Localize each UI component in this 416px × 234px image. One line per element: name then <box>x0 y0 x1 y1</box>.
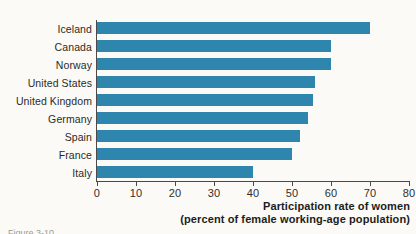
bar-italy <box>97 166 253 178</box>
bar-canada <box>97 40 331 52</box>
category-label-france: France <box>0 149 92 161</box>
figure-caption-partial: Figure 3-10 <box>8 228 208 234</box>
x-tick-label-20: 20 <box>160 187 190 199</box>
x-tick-label-0: 0 <box>82 187 112 199</box>
x-axis-title-line1: Participation rate of women <box>263 200 410 212</box>
bar-united-kingdom <box>97 94 313 106</box>
category-label-italy: Italy <box>0 167 92 179</box>
x-tick-label-30: 30 <box>199 187 229 199</box>
x-tick-label-60: 60 <box>316 187 346 199</box>
bar-iceland <box>97 22 370 34</box>
category-label-united-kingdom: United Kingdom <box>0 95 92 107</box>
x-tick-70 <box>370 181 371 186</box>
x-tick-label-70: 70 <box>355 187 385 199</box>
bar-germany <box>97 112 308 124</box>
x-tick-30 <box>214 181 215 186</box>
x-tick-40 <box>253 181 254 186</box>
bar-norway <box>97 58 331 70</box>
category-label-canada: Canada <box>0 41 92 53</box>
x-tick-label-50: 50 <box>277 187 307 199</box>
x-tick-60 <box>331 181 332 186</box>
category-label-norway: Norway <box>0 59 92 71</box>
x-tick-20 <box>175 181 176 186</box>
category-label-iceland: Iceland <box>0 23 92 35</box>
x-tick-0 <box>97 181 98 186</box>
x-tick-label-80: 80 <box>394 187 416 199</box>
bar-france <box>97 148 292 160</box>
category-label-united-states: United States <box>0 77 92 89</box>
bar-chart: IcelandCanadaNorwayUnited StatesUnited K… <box>0 0 416 234</box>
x-axis-title-line2: (percent of female working-age populatio… <box>180 213 410 225</box>
x-tick-80 <box>409 181 410 186</box>
category-label-germany: Germany <box>0 113 92 125</box>
x-tick-10 <box>136 181 137 186</box>
bar-spain <box>97 130 300 142</box>
category-label-spain: Spain <box>0 131 92 143</box>
bar-united-states <box>97 76 315 88</box>
x-tick-50 <box>292 181 293 186</box>
x-tick-label-40: 40 <box>238 187 268 199</box>
x-tick-label-10: 10 <box>121 187 151 199</box>
